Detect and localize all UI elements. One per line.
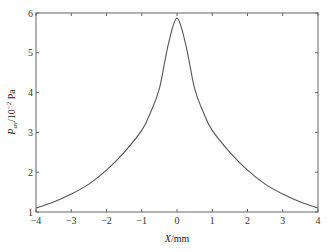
tick-label: 4: [316, 215, 321, 226]
y-axis-label-var: P: [6, 129, 17, 136]
tick-label: −2: [101, 215, 112, 226]
data-curve: [36, 18, 318, 208]
axis-ticks: [36, 13, 318, 212]
tick-label: −1: [136, 215, 147, 226]
tick-label: 1: [210, 215, 215, 226]
y-axis-label: Pav/10−2 Pa: [5, 89, 19, 136]
tick-label: 2: [245, 215, 250, 226]
tick-label: 4: [28, 87, 33, 98]
tick-label: 1: [28, 207, 33, 218]
y-axis-label-unit: /10: [6, 109, 17, 122]
plot-border: [36, 13, 318, 212]
x-axis-label: X/mm: [164, 233, 190, 244]
plot-frame: [36, 13, 318, 212]
tick-label: 6: [28, 8, 33, 19]
tick-label: 5: [28, 47, 33, 58]
y-axis-label-tail: Pa: [6, 89, 17, 102]
tick-label: 3: [280, 215, 285, 226]
tick-label: 2: [28, 167, 33, 178]
tick-label: 0: [175, 215, 180, 226]
line-chart: −4−3−2−101234123456 X/mm Pav/10−2 Pa: [0, 0, 332, 252]
x-axis-label-unit: /mm: [171, 233, 190, 244]
tick-label: 3: [28, 127, 33, 138]
tick-label: −3: [66, 215, 77, 226]
